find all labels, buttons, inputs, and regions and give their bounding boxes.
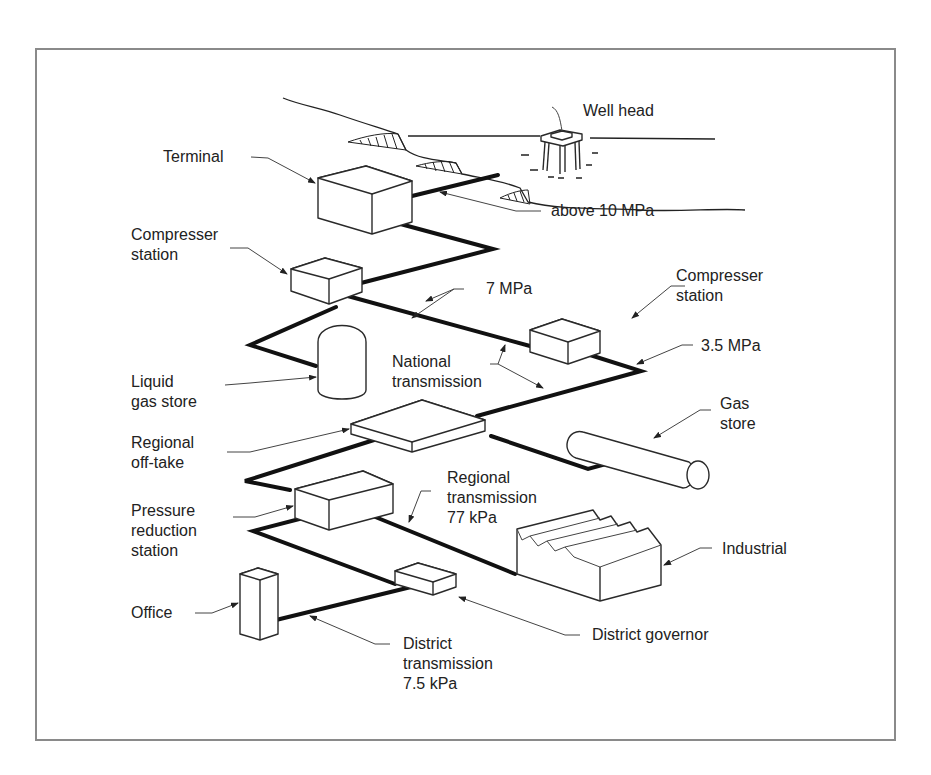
well-head-platform [541,107,582,174]
label-national-transmission: National transmission [392,352,482,392]
label-well-head: Well head [583,101,654,121]
label-liquid-gas-store: Liquid gas store [131,372,197,412]
label-3-5mpa: 3.5 MPa [701,336,761,356]
label-regional-offtake: Regional off-take [131,433,194,473]
pressure-reduction-station [295,471,393,530]
industrial-building [517,510,661,601]
label-industrial: Industrial [722,539,787,559]
label-gas-store: Gas store [720,394,756,434]
label-compressor-station-2: Compresser station [676,266,763,306]
label-office: Office [131,603,173,623]
terminal-building [318,166,412,234]
label-district-governor: District governor [592,625,708,645]
liquid-gas-store [318,326,366,400]
label-pressure-reduction-station: Pressure reduction station [131,501,197,561]
label-regional-transmission: Regional transmission 77 kPa [447,468,537,528]
label-district-transmission: District transmission 7.5 kPa [403,634,493,694]
label-above-10mpa: above 10 MPa [551,201,654,221]
label-compressor-station-1: Compresser station [131,225,218,265]
label-terminal: Terminal [163,147,223,167]
gas-store-cylinder [567,431,709,489]
regional-offtake [351,400,485,452]
office-building [240,568,278,640]
label-7mpa: 7 MPa [486,279,532,299]
compressor-station-2 [530,319,600,364]
